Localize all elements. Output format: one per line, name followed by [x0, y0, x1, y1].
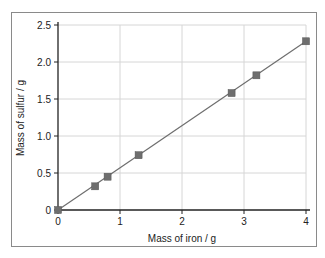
- scatter-chart: 01234 00.51.01.52.02.5 Mass of iron / g …: [0, 0, 325, 258]
- x-tick-label: 0: [55, 216, 61, 227]
- x-tick-label: 3: [241, 216, 247, 227]
- y-tick-label: 0.5: [37, 168, 51, 179]
- y-tick-label: 2.5: [37, 20, 51, 31]
- data-point-marker: [135, 152, 142, 159]
- data-point-marker: [92, 183, 99, 190]
- x-tick-label: 2: [179, 216, 185, 227]
- x-tick-label: 4: [303, 216, 309, 227]
- y-tick-label: 1.5: [37, 94, 51, 105]
- y-tick-label: 1.0: [37, 131, 51, 142]
- data-point-marker: [104, 173, 111, 180]
- x-tick-label: 1: [117, 216, 123, 227]
- data-point-marker: [303, 38, 310, 45]
- data-point-marker: [228, 90, 235, 97]
- y-tick-label: 2.0: [37, 57, 51, 68]
- x-axis-ticks: 01234: [55, 210, 309, 227]
- gridlines: [58, 25, 306, 210]
- y-axis-ticks: 00.51.01.52.02.5: [37, 20, 58, 216]
- data-point-marker: [253, 72, 260, 79]
- axes: [58, 22, 310, 210]
- y-tick-label: 0: [45, 205, 51, 216]
- y-axis-label: Mass of sulfur / g: [15, 80, 26, 156]
- x-axis-label: Mass of iron / g: [148, 233, 216, 244]
- data-point-marker: [55, 207, 62, 214]
